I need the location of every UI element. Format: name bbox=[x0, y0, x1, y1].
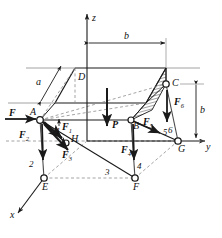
figure-canvas: z y x A B C D E F G H 1 2 3 4 5 6 F F1 F… bbox=[0, 0, 222, 238]
member-label-4: 4 bbox=[137, 162, 142, 171]
force-label-F6: F6 bbox=[174, 97, 184, 110]
force-label-F2: F2 bbox=[19, 130, 29, 143]
member-label-2: 2 bbox=[29, 160, 34, 169]
axis-y-label: y bbox=[206, 142, 210, 152]
node-label-E: E bbox=[42, 182, 48, 192]
force-label-F4: F4 bbox=[121, 145, 131, 158]
node-label-G: G bbox=[178, 144, 185, 154]
dimension-label-b-top: b bbox=[124, 31, 129, 41]
member-label-3: 3 bbox=[105, 168, 110, 177]
force-label-P: P bbox=[112, 120, 118, 130]
node-label-F-node: F bbox=[133, 182, 139, 192]
dimension-b-top bbox=[89, 38, 166, 68]
force-label-F: F bbox=[9, 108, 16, 118]
force-label-F3: F3 bbox=[62, 150, 72, 163]
force-arrow-F2 bbox=[42, 124, 43, 160]
member-label-5: 5 bbox=[163, 128, 167, 137]
axis-z-label: z bbox=[92, 13, 96, 23]
member-label-1: 1 bbox=[56, 127, 60, 136]
node-label-B: B bbox=[133, 121, 139, 131]
dimension-label-a: a bbox=[36, 77, 41, 87]
node-label-A: A bbox=[30, 107, 36, 117]
force-label-F5: F5 bbox=[143, 117, 153, 130]
node-label-H: H bbox=[71, 134, 78, 144]
axis-x-label: x bbox=[10, 210, 14, 220]
dimension-a bbox=[41, 66, 61, 101]
axis-x bbox=[18, 178, 44, 213]
force-label-F1: F1 bbox=[62, 122, 72, 135]
dimension-label-b-right: b bbox=[200, 105, 205, 115]
diagram-svg bbox=[0, 0, 222, 238]
node-label-C: C bbox=[172, 78, 179, 88]
member-label-6: 6 bbox=[168, 126, 173, 135]
node-label-D: D bbox=[78, 72, 85, 82]
